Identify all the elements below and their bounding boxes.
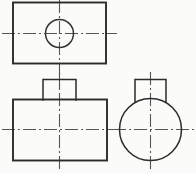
right-side-view xyxy=(113,72,194,170)
engineering-drawing-canvas xyxy=(0,0,196,173)
drawing-svg xyxy=(0,0,196,173)
